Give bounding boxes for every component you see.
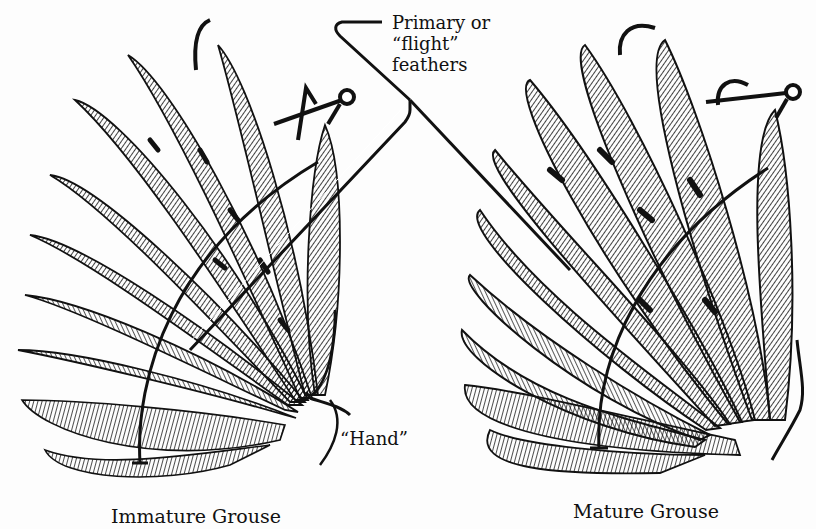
grouse-wing-diagram: Primary or “flight” feathers “Hand” Imma… (0, 0, 816, 529)
primary-callout-line-3: feathers (392, 54, 490, 75)
arc-mark-icon (620, 26, 655, 55)
hook-mark-icon (195, 20, 210, 70)
mature-wing (462, 26, 803, 474)
pin-circle-icon (340, 90, 354, 104)
hand-callout: “Hand” (340, 428, 408, 450)
mature-grouse-caption: Mature Grouse (573, 500, 719, 522)
primary-callout-line-2: “flight” (392, 33, 490, 54)
wing-illustrations (0, 0, 816, 529)
immature-wing (18, 20, 354, 477)
immature-grouse-caption: Immature Grouse (111, 505, 281, 527)
primary-feathers-callout: Primary or “flight” feathers (392, 12, 490, 75)
secondary-feather (22, 400, 285, 451)
pin-circle-icon (786, 85, 800, 99)
primary-callout-line-1: Primary or (392, 12, 490, 33)
